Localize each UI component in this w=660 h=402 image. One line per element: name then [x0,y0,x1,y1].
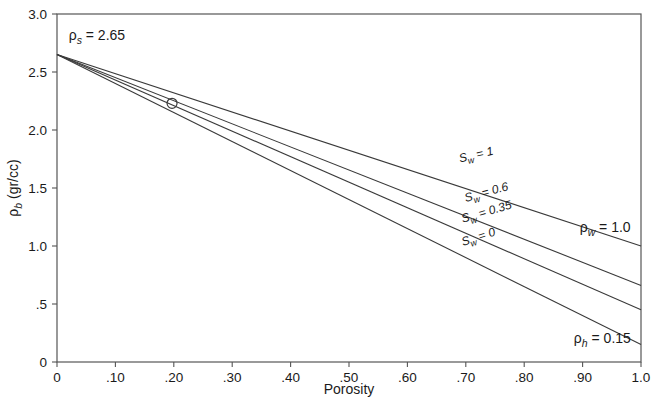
matrix-density-label: ρs = 2.65 [69,27,126,46]
y-tick-label: .5 [36,297,47,312]
series-inline-labels: Sw = 1Sw = 0.6Sw = 0.35Sw = 0 [457,144,514,251]
chart-figure: 0.10.20.30.40.50.60.70.80.901.0 0.51.01.… [0,0,660,402]
x-tick-label: .60 [398,370,417,385]
plot-frame [57,14,641,362]
series-line-sw-1 [57,55,641,246]
density-porosity-chart: 0.10.20.30.40.50.60.70.80.901.0 0.51.01.… [0,0,660,402]
series-line-sw-0 [57,55,641,345]
x-tick-label: .30 [223,370,242,385]
y-tick-label: 1.5 [28,181,47,196]
hydrocarbon-density-label: ρh = 0.15 [574,330,631,349]
y-tick-label: 1.0 [28,239,47,254]
series-label: Sw = 0 [459,225,498,252]
x-tick-label: .90 [573,370,592,385]
x-tick-label: .20 [164,370,183,385]
y-axis-tick-labels: 0.51.01.52.02.53.0 [28,7,47,370]
y-tick-label: 2.0 [28,123,47,138]
x-axis-title-text: Porosity [324,381,375,397]
y-axis-ticks [52,14,57,362]
plot-area-border [57,14,641,362]
x-tick-label: .40 [281,370,300,385]
y-tick-label: 0 [39,355,47,370]
x-axis-title: Porosity [324,381,375,397]
x-tick-label: .70 [456,370,475,385]
y-axis-title-text: ρb (gr/cc) [5,159,24,216]
density-annotations: ρs = 2.65ρw = 1.0ρh = 0.15 [69,27,631,350]
series-label: Sw = 1 [457,144,495,168]
water-density-label: ρw = 1.0 [580,219,631,238]
x-tick-label: .10 [106,370,125,385]
y-axis-title: ρb (gr/cc) [5,159,24,216]
x-tick-label: 1.0 [632,370,651,385]
y-tick-label: 2.5 [28,65,47,80]
series-line-sw-0-35 [57,55,641,310]
series-line-sw-0-6 [57,55,641,286]
x-tick-label: .80 [515,370,534,385]
x-axis-ticks [57,362,641,367]
data-series-lines [57,55,641,345]
x-tick-label: 0 [53,370,61,385]
y-tick-label: 3.0 [28,7,47,22]
